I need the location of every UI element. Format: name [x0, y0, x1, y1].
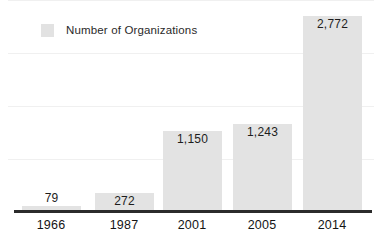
x-axis-tick-labels: 19661987200120052014	[0, 217, 381, 239]
x-tick-label-1966: 1966	[21, 217, 81, 234]
bar-value-label-2014: 2,772	[303, 18, 362, 30]
plot-area: 792721,1501,2432,772	[0, 0, 381, 212]
bar-group[interactable]: 1,150	[163, 0, 222, 212]
bar-value-label-1987: 272	[95, 195, 154, 207]
bar-chart: Number of Organizations 792721,1501,2432…	[0, 0, 381, 252]
bar-group[interactable]: 272	[95, 0, 154, 212]
x-axis-line	[14, 210, 372, 213]
bar-2014[interactable]	[303, 16, 362, 212]
bar-group[interactable]: 2,772	[303, 0, 362, 212]
bar-group[interactable]: 1,243	[233, 0, 292, 212]
x-tick-label-2005: 2005	[232, 217, 292, 234]
bar-group[interactable]: 79	[22, 0, 81, 212]
x-tick-label-2014: 2014	[302, 217, 362, 234]
bar-value-label-1966: 79	[22, 192, 81, 204]
bar-value-label-2001: 1,150	[163, 133, 222, 145]
x-tick-label-2001: 2001	[162, 217, 222, 234]
bar-value-label-2005: 1,243	[233, 126, 292, 138]
x-tick-label-1987: 1987	[94, 217, 154, 234]
